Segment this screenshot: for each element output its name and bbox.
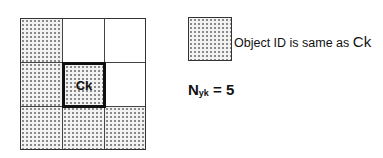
center-cell-ck: Ck	[62, 62, 106, 108]
count-subscript: yk	[199, 88, 209, 98]
legend-symbol: Ck	[353, 33, 371, 50]
legend-label: Object ID is same as Ck	[234, 33, 371, 50]
grid-cell-2-2	[105, 107, 145, 149]
neighborhood-grid: Ck	[20, 18, 146, 150]
grid-cell-2-1	[63, 107, 105, 149]
grid-cell-1-0	[21, 63, 63, 107]
count-value: = 5	[209, 81, 234, 98]
count-label: N	[188, 81, 199, 98]
legend-swatch	[188, 17, 232, 61]
neighbor-count: Nyk = 5	[188, 81, 234, 98]
grid-cell-0-1	[63, 19, 105, 63]
grid-cell-2-0	[21, 107, 63, 149]
legend-text: Object ID is same as	[234, 36, 353, 50]
center-cell-label: Ck	[76, 78, 93, 93]
grid-cell-1-2	[105, 63, 145, 107]
grid-cell-0-0	[21, 19, 63, 63]
grid-cell-0-2	[105, 19, 145, 63]
